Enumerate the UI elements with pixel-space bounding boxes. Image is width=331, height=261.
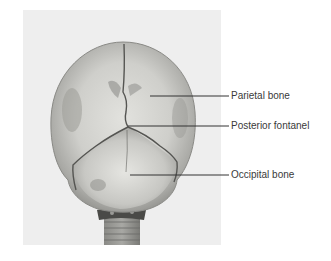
anatomy-figure: Parietal bone Posterior fontanel Occipit… [0,0,331,261]
label-posterior-fontanel: Posterior fontanel [231,120,309,132]
cervical-spine [97,207,146,245]
label-occipital-bone: Occipital bone [231,169,294,181]
label-parietal-bone: Parietal bone [231,90,290,102]
